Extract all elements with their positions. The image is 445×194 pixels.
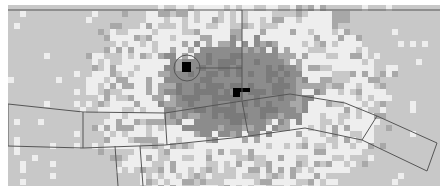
- region-boundary: [140, 146, 143, 186]
- region-overlay: [8, 5, 440, 186]
- region-boundary: [8, 94, 437, 171]
- heatmap-map[interactable]: [8, 5, 440, 186]
- region-boundary: [115, 146, 118, 186]
- region-boundary: [362, 116, 377, 140]
- region-boundary: [165, 113, 167, 145]
- region-boundary: [242, 101, 248, 133]
